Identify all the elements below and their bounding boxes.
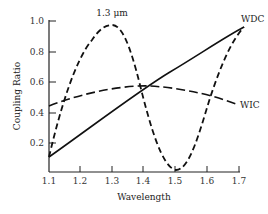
y-tick-label: 0.8	[30, 47, 45, 57]
x-tick-label: 1.6	[200, 176, 215, 186]
x-tick-label: 1.7	[232, 176, 247, 186]
x-tick-label: 1.4	[136, 176, 151, 186]
y-axis-label: Coupling Ratio	[12, 62, 22, 130]
y-ticks: 1.0 0.8 0.6 0.4 0.2	[30, 16, 56, 148]
series-wdc-line	[49, 27, 244, 157]
y-tick-label: 0.4	[30, 108, 45, 118]
series-label-13um: 1.3 μm	[96, 8, 128, 18]
series-label-wic: WIC	[240, 100, 260, 110]
y-tick-label: 1.0	[30, 16, 45, 26]
x-tick-label: 1.5	[168, 176, 183, 186]
coupling-ratio-chart: 1.0 0.8 0.6 0.4 0.2 1.1 1.2 1.3 1.4 1.5 …	[0, 0, 268, 214]
y-tick-label: 0.6	[30, 77, 45, 87]
y-tick-label: 0.2	[30, 138, 44, 148]
x-ticks: 1.1 1.2 1.3 1.4 1.5 1.6 1.7	[42, 166, 247, 186]
x-tick-label: 1.2	[73, 176, 87, 186]
series-label-wdc: WDC	[241, 14, 264, 24]
x-tick-label: 1.1	[42, 176, 56, 186]
x-tick-label: 1.3	[105, 176, 120, 186]
x-axis-label: Wavelength	[117, 192, 171, 202]
